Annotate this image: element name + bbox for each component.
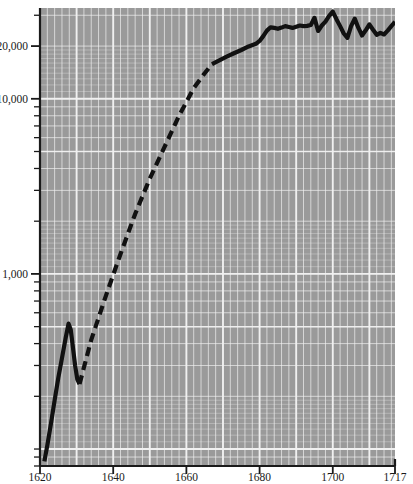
- y-tick-label: 20,000: [0, 40, 28, 53]
- x-axis-tick-labels: 162016401660168017001717: [29, 471, 407, 483]
- y-tick-label: 1,000: [2, 268, 28, 281]
- x-tick-label: 1700: [321, 471, 344, 483]
- y-axis-ticks: [31, 15, 40, 466]
- x-tick-label: 1640: [102, 471, 125, 483]
- chart-canvas: 20,00010,0001,000 1620164016601680170017…: [0, 0, 413, 484]
- x-tick-label: 1660: [175, 471, 198, 483]
- chart-figure: 20,00010,0001,000 1620164016601680170017…: [0, 0, 413, 484]
- x-tick-label: 1620: [29, 471, 52, 483]
- plot-background: [40, 8, 395, 466]
- x-tick-label: 1717: [384, 471, 407, 483]
- y-tick-label: 10,000: [0, 93, 28, 106]
- x-tick-label: 1680: [248, 471, 271, 483]
- y-axis-tick-labels: 20,00010,0001,000: [0, 40, 28, 281]
